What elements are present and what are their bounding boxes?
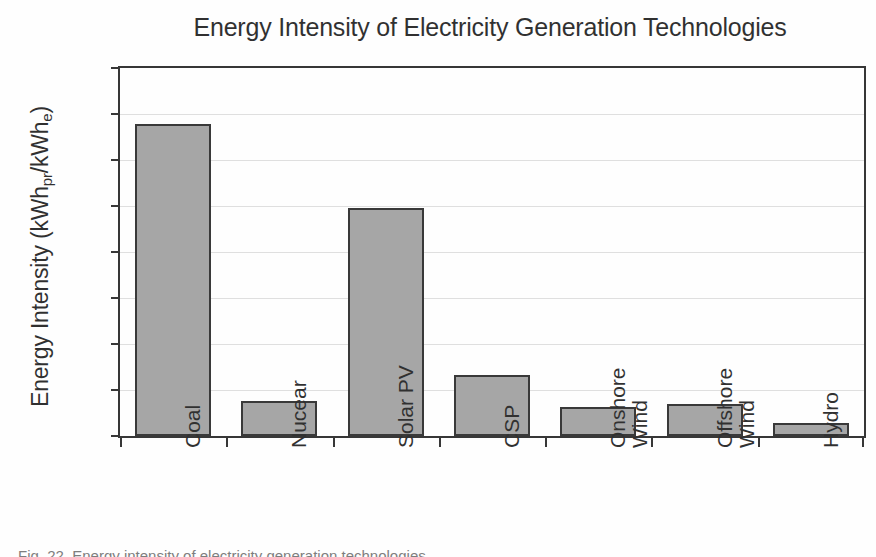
- figure-caption: Fig. 22. Energy intensity of electricity…: [18, 548, 578, 557]
- x-tick-mark: [862, 436, 864, 447]
- gridline: [120, 252, 864, 253]
- y-axis-title-sub-e: e: [38, 114, 55, 122]
- x-axis-label: Offshore Wind: [714, 328, 758, 448]
- y-tick-mark: [111, 435, 120, 437]
- x-tick-mark: [333, 436, 335, 447]
- y-tick-mark: [111, 251, 120, 253]
- x-tick-mark: [439, 436, 441, 447]
- y-axis-title: Energy Intensity (kWhpr/kWhe): [27, 62, 56, 452]
- gridline: [120, 298, 864, 299]
- y-tick-mark: [111, 389, 120, 391]
- figure-container: Energy Intensity of Electricity Generati…: [0, 0, 876, 557]
- x-axis-label: Coal: [182, 328, 204, 448]
- x-axis-label: Nucear: [288, 328, 310, 448]
- y-tick-mark: [111, 67, 120, 69]
- x-tick-mark: [758, 436, 760, 447]
- y-tick-mark: [111, 205, 120, 207]
- x-axis-label: Onshore Wind: [607, 328, 651, 448]
- x-tick-mark: [651, 436, 653, 447]
- y-tick-mark: [111, 297, 120, 299]
- y-tick-mark: [111, 343, 120, 345]
- x-axis-label: Hydro: [820, 328, 842, 448]
- gridline: [120, 114, 864, 115]
- y-axis-title-middle: /kWh: [27, 122, 53, 174]
- y-axis-title-prefix: Energy Intensity (kWh: [27, 186, 53, 407]
- x-axis-label: Solar PV: [395, 328, 417, 448]
- x-tick-mark: [226, 436, 228, 447]
- y-axis-title-sub-pr: pr: [38, 173, 55, 186]
- y-axis-title-suffix: ): [27, 106, 53, 113]
- gridline: [120, 160, 864, 161]
- y-tick-mark: [111, 159, 120, 161]
- x-tick-mark: [545, 436, 547, 447]
- x-tick-mark: [120, 436, 122, 447]
- y-tick-mark: [111, 113, 120, 115]
- chart-title: Energy Intensity of Electricity Generati…: [118, 12, 862, 42]
- gridline: [120, 206, 864, 207]
- x-axis-label: CSP: [501, 328, 523, 448]
